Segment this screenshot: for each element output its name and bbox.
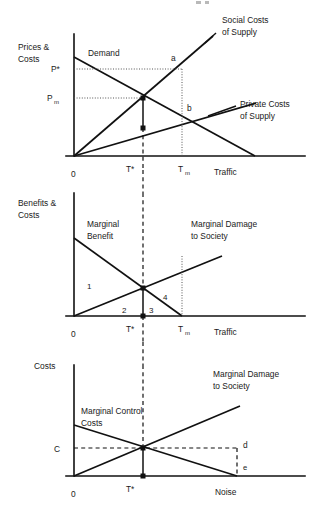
point-label-b: b (187, 103, 192, 113)
panel1-x-axis-label: Traffic (214, 167, 237, 177)
area-number-1: 1 (87, 282, 92, 291)
area-number-3: 3 (149, 306, 154, 315)
marginal-damage-label-panel3-line2: to Society (213, 381, 251, 391)
social-costs-leader (205, 33, 216, 43)
panel2-tick-t-star: T* (126, 324, 135, 334)
panel2-y-axis-label-line2: Costs (18, 210, 39, 220)
panel2-tick-t-m-subscript: m (185, 330, 190, 336)
point-label-d: d (243, 440, 248, 450)
tick-label-p-star: P* (51, 64, 61, 74)
marginal-damage-curve-panel3 (74, 406, 240, 476)
economics-three-panel-diagram: Prices & Costs P* P m Demand Social Cost… (0, 0, 314, 523)
marker-equilibrium-private (141, 126, 146, 131)
panel2-origin-label: 0 (71, 329, 76, 339)
tick-label-c: C (54, 444, 60, 454)
panel1-y-axis-label-line1: Prices & (18, 42, 50, 52)
marginal-control-costs-label-line1: Marginal Control (81, 406, 143, 416)
panel-traffic-prices: Prices & Costs P* P m Demand Social Cost… (18, 15, 305, 179)
panel-noise-costs: Costs Marginal Control Costs Marginal Da… (34, 342, 305, 499)
private-costs-curve (74, 103, 256, 156)
panel1-tick-t-m-subscript: m (185, 170, 190, 176)
scan-speck (196, 1, 201, 4)
panel1-tick-t-star: T* (126, 164, 135, 174)
point-label-a: a (171, 53, 176, 63)
social-costs-label-line1: Social Costs (222, 15, 269, 25)
marginal-control-costs-label-line2: Costs (81, 418, 102, 428)
marginal-control-costs-curve (74, 425, 237, 476)
marker-panel2-axis-foot (141, 314, 146, 319)
panel2-y-axis-label-line1: Benefits & (18, 198, 57, 208)
panel1-y-axis-label-line2: Costs (18, 54, 39, 64)
private-costs-label-line1: Private Costs (240, 99, 290, 109)
point-label-e: e (243, 463, 247, 472)
marginal-damage-label-panel3-line1: Marginal Damage (213, 369, 279, 379)
panel2-x-axis-label: Traffic (214, 327, 237, 337)
panel3-y-axis-label: Costs (34, 361, 55, 371)
marginal-damage-curve-panel2 (74, 256, 222, 316)
panel3-origin-label: 0 (71, 489, 76, 499)
marginal-benefit-label-line2: Benefit (87, 231, 114, 241)
private-costs-leader (208, 106, 236, 116)
panel-benefits-costs: Benefits & Costs Marginal Benefit Margin… (18, 170, 305, 342)
marginal-damage-label-panel2-line2: to Society (191, 231, 229, 241)
area-number-4: 4 (163, 293, 168, 302)
marginal-benefit-curve (74, 238, 182, 316)
tick-label-p-m-subscript: m (54, 99, 59, 105)
panel1-tick-t-m: T (178, 164, 183, 174)
marker-panel3-axis-foot (141, 474, 146, 479)
scan-speck (205, 1, 209, 4)
panel1-origin-label: 0 (71, 169, 76, 179)
private-costs-label-line2: of Supply (240, 111, 276, 121)
marker-equilibrium-social (141, 96, 146, 101)
marginal-benefit-label-line1: Marginal (87, 219, 119, 229)
demand-curve-label: Demand (88, 48, 120, 58)
marginal-damage-label-panel2-line1: Marginal Damage (191, 219, 257, 229)
social-costs-label-line2: of Supply (222, 27, 258, 37)
area-number-2: 2 (122, 306, 127, 315)
panel3-x-axis-label: Noise (215, 487, 237, 497)
tick-label-p-m: P (47, 93, 53, 103)
panel3-tick-t-star: T* (126, 484, 135, 494)
marker-panel2-intersection (141, 286, 146, 291)
marker-panel3-intersection (141, 446, 146, 451)
panel2-tick-t-m: T (178, 324, 183, 334)
demand-curve (74, 57, 255, 156)
